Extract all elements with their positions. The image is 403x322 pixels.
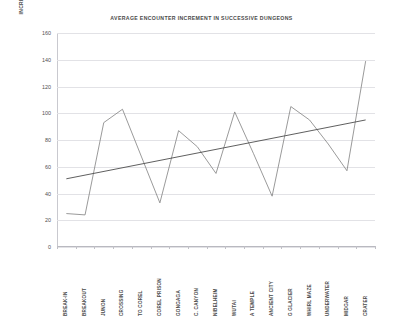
x-axis-tick-label: ANCIENT CITY (269, 281, 274, 316)
y-axis-tick-label: 0 (23, 244, 51, 250)
trendline (66, 120, 365, 179)
y-axis-tick-label: 60 (23, 164, 51, 170)
data-line (66, 61, 365, 215)
x-axis-tickmark (375, 246, 376, 249)
x-axis-tick-labels: BREAK-INBREAKOUTJUNONCROSSINGTO CORELCOR… (57, 250, 375, 318)
x-axis-tick-label: TO COREL (138, 290, 143, 316)
x-axis-tick-label: WUTAI (232, 300, 237, 316)
y-axis-tick-label: 120 (23, 83, 51, 89)
x-axis-tick-label: MIDGAR (344, 296, 349, 316)
x-axis-tick-label: BREAK-IN (63, 292, 68, 316)
y-axis-tick-label: 160 (23, 30, 51, 36)
chart-container: AVERAGE ENCOUNTER INCREMENT IN SUCCESSIV… (0, 0, 403, 322)
x-axis-tick-label: BREAKOUT (82, 288, 87, 316)
x-axis-tick-label: UNDERWATER (325, 281, 330, 316)
x-axis-tick-label: WHIRL MAZE (307, 284, 312, 316)
y-axis-tick-label: 20 (23, 217, 51, 223)
series-lines (57, 33, 375, 247)
x-axis-tick-label: CRATER (363, 296, 368, 316)
y-axis-tick-label: 40 (23, 190, 51, 196)
y-axis-tick-label: 80 (23, 137, 51, 143)
gridline (57, 247, 375, 248)
y-axis-tick-label: 140 (23, 57, 51, 63)
x-axis-tick-label: CROSSING (119, 289, 124, 316)
x-axis-tick-label: COREL PRISON (157, 278, 162, 316)
x-axis-tick-label: G GLACIER (288, 288, 293, 316)
y-axis-tick-label: 100 (23, 110, 51, 116)
plot-area: 020406080100120140160 (57, 33, 375, 247)
y-axis-title: INCREMENT ADDED TO RUNNING TOTAL (16, 0, 26, 45)
x-axis-tick-label: A TEMPLE (250, 291, 255, 316)
x-axis-tick-label: JUNON (101, 299, 106, 316)
x-axis-tick-label: GONGAGA (176, 290, 181, 316)
x-axis-tick-label: NIBELHEIM (213, 288, 218, 316)
x-axis-tick-label: C. CANYON (194, 288, 199, 316)
chart-title: AVERAGE ENCOUNTER INCREMENT IN SUCCESSIV… (0, 15, 403, 21)
y-axis-title-label: INCREMENT ADDED TO RUNNING TOTAL (18, 0, 24, 14)
